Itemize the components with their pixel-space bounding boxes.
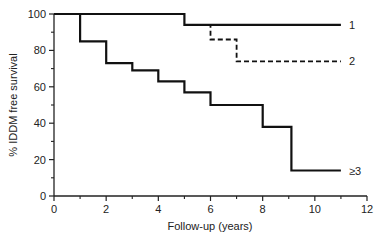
y-tick-label: 0	[40, 190, 46, 202]
series-line-2	[184, 25, 341, 61]
x-tick-label: 10	[309, 203, 321, 215]
series-lines	[54, 14, 341, 171]
series-label-2: 2	[349, 55, 355, 67]
series-line-1	[54, 14, 341, 25]
x-tick-label: 6	[207, 203, 213, 215]
y-axis-label: % IDDM free survival	[7, 53, 19, 156]
x-tick-label: 4	[155, 203, 161, 215]
x-tick-label: 2	[103, 203, 109, 215]
y-tick-label: 100	[28, 8, 46, 20]
survival-chart: 024681012020406080100 12≥3 Follow-up (ye…	[0, 0, 381, 237]
y-tick-label: 60	[34, 81, 46, 93]
x-tick-label: 12	[361, 203, 373, 215]
x-tick-label: 8	[260, 203, 266, 215]
series-label-1: 1	[349, 19, 355, 31]
y-tick-label: 80	[34, 44, 46, 56]
x-axis-label: Follow-up (years)	[168, 220, 253, 232]
series-line-3	[54, 14, 341, 171]
y-tick-label: 20	[34, 154, 46, 166]
series-labels: 12≥3	[349, 19, 361, 177]
x-tick-label: 0	[51, 203, 57, 215]
series-label-3: ≥3	[349, 165, 361, 177]
y-tick-label: 40	[34, 117, 46, 129]
